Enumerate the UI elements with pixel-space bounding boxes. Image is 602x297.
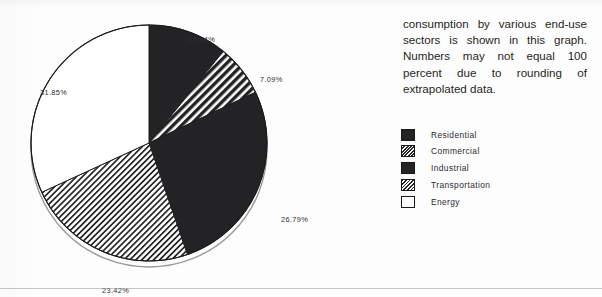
page-bottom-rule xyxy=(0,288,602,289)
legend-swatch-icon-transportation xyxy=(401,179,415,191)
pie-chart-figure: 10.84% 7.09% 26.79% 23.42% 31.85% xyxy=(0,0,310,297)
pie-label-residential: 10.84% xyxy=(188,35,215,44)
legend-item-label: Commercial xyxy=(431,146,480,156)
legend-item-energy[interactable]: Energy xyxy=(401,194,591,209)
legend-item-industrial[interactable]: Industrial xyxy=(401,161,591,176)
pie-chart-graphic: 10.84% 7.09% 26.79% 23.42% 31.85% xyxy=(28,22,270,268)
legend-item-commercial[interactable]: Commercial xyxy=(401,144,591,159)
legend-item-label: Residential xyxy=(431,130,477,140)
pie-slice-group xyxy=(31,25,267,261)
pie-label-commercial: 7.09% xyxy=(260,75,283,84)
legend-item-residential[interactable]: Residential xyxy=(401,127,591,142)
legend-item-label: Energy xyxy=(431,197,460,207)
pie-label-industrial: 26.79% xyxy=(281,215,308,224)
document-page: 10.84% 7.09% 26.79% 23.42% 31.85% consum… xyxy=(0,0,602,297)
legend-item-label: Industrial xyxy=(431,163,469,173)
body-paragraph: consumption by various end-use sectors i… xyxy=(403,16,587,98)
legend-item-label: Transportation xyxy=(431,180,490,190)
legend-swatch-icon-commercial xyxy=(401,145,415,157)
legend-swatch-icon-energy xyxy=(401,196,415,208)
legend-swatch-icon-residential xyxy=(401,129,415,141)
legend-swatch-icon-industrial xyxy=(401,162,415,174)
chart-legend: ResidentialCommercialIndustrialTransport… xyxy=(401,127,591,211)
legend-item-transportation[interactable]: Transportation xyxy=(401,177,591,192)
pie-chart-svg xyxy=(28,22,270,268)
pie-label-energy: 31.85% xyxy=(40,88,67,97)
